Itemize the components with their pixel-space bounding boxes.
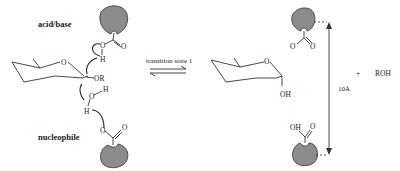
acid-base-label: acid/base	[38, 19, 72, 29]
bond	[68, 62, 84, 76]
glycosidase-mechanism-diagram: acid/base nucleophile O O H O OR O H H O…	[0, 0, 400, 171]
atom-o: O	[100, 41, 106, 50]
plus-sign: +	[356, 69, 360, 78]
atom-o: O	[310, 42, 316, 51]
product-pocket-bottom	[293, 143, 318, 166]
bond	[94, 91, 102, 95]
atom-o: O	[310, 122, 316, 131]
atom-h: H	[100, 55, 106, 64]
bond	[307, 131, 312, 138]
bond	[305, 130, 310, 137]
bond	[113, 33, 114, 40]
nucleophile-label: nucleophile	[38, 132, 80, 142]
atom-o-minus: O	[290, 42, 296, 51]
atom-o: O	[122, 123, 128, 132]
product-oh: OH	[280, 90, 291, 99]
bond	[297, 38, 304, 44]
atom-o: O	[121, 42, 127, 51]
product-pocket-top	[292, 8, 315, 31]
distance-label: 10Å	[338, 85, 350, 93]
ring-oxygen: O	[61, 58, 67, 67]
enzyme-pocket-top	[100, 6, 128, 34]
bond	[105, 40, 113, 44]
bond	[86, 77, 94, 78]
product-oh-bottom: OH	[290, 123, 301, 132]
transition-state-label: transition state 1	[146, 57, 193, 65]
atom-o: O	[100, 126, 106, 135]
curved-arrow	[87, 58, 97, 74]
product-ring-oxygen: O	[264, 57, 270, 66]
or-group: OR	[94, 74, 104, 83]
arrow-head	[326, 148, 332, 155]
enzyme-pocket-bottom	[101, 144, 128, 168]
arrow-head	[326, 22, 332, 29]
curved-arrow	[80, 84, 84, 100]
bond	[105, 131, 113, 138]
bond	[270, 62, 282, 76]
water-h: H	[84, 107, 90, 116]
product-roh: ROH	[375, 69, 391, 78]
curved-arrow	[93, 44, 101, 56]
bond	[299, 131, 305, 137]
water-h: H	[103, 85, 109, 94]
